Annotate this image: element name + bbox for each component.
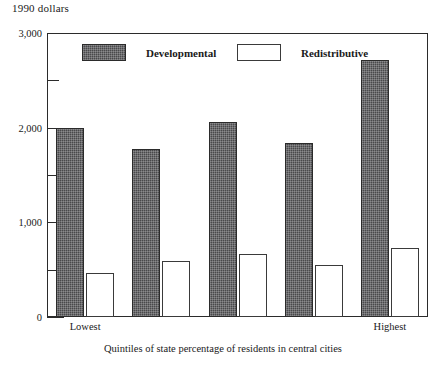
- bar-developmental-2: [132, 149, 160, 318]
- bar-developmental-4: [285, 143, 313, 317]
- bar-developmental-1: [56, 128, 84, 317]
- legend-item-developmental: Developmental: [82, 44, 216, 61]
- bar-chart: 1990 dollars 01,0002,0003,000 LowestHigh…: [0, 0, 446, 371]
- y-tick-label: 2,000: [0, 122, 42, 133]
- legend-item-redistributive: Redistributive: [237, 44, 368, 61]
- bar-redistributive-2: [162, 261, 190, 317]
- y-tick-label: 0: [0, 312, 42, 323]
- bars-layer: [47, 33, 428, 317]
- y-tick-major: [47, 317, 64, 318]
- bar-developmental-5: [361, 60, 389, 317]
- legend-label-developmental: Developmental: [146, 47, 216, 59]
- x-tick-label: Highest: [374, 321, 407, 332]
- bar-redistributive-1: [86, 273, 114, 317]
- legend-label-redistributive: Redistributive: [301, 47, 368, 59]
- bar-redistributive-5: [391, 248, 419, 317]
- y-tick-label: 1,000: [0, 217, 42, 228]
- y-tick-label: 3,000: [0, 28, 42, 39]
- bar-developmental-3: [209, 122, 237, 317]
- bar-redistributive-3: [239, 254, 267, 317]
- redistributive-swatch-icon: [237, 44, 281, 61]
- x-tick-label: Lowest: [70, 321, 101, 332]
- bar-redistributive-4: [315, 265, 343, 317]
- y-axis-title: 1990 dollars: [12, 2, 69, 14]
- x-axis-caption: Quintiles of state percentage of residen…: [0, 343, 446, 354]
- developmental-swatch-icon: [82, 44, 126, 61]
